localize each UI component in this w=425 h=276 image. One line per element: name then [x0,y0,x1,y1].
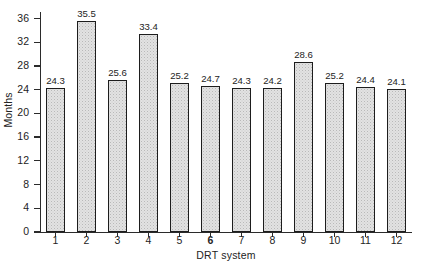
bar-11 [356,87,375,232]
bar-3 [108,80,127,232]
bar-value-label-9: 28.6 [282,49,326,60]
bar-6 [201,86,220,232]
bar-8 [263,88,282,232]
bar-value-label-4: 33.4 [127,21,171,32]
bar-value-label-3: 25.6 [96,67,140,78]
bar-value-label-2: 35.5 [65,8,109,19]
bar-value-label-12: 24.1 [375,76,419,87]
bar-5 [170,83,189,232]
bar-4 [139,34,158,232]
bar-12 [387,89,406,232]
bar-2 [77,21,96,232]
bar-1 [46,88,65,232]
bar-chart-figure: Months 04812162024283236 123456789101112… [0,0,425,276]
bar-value-label-1: 24.3 [34,75,78,86]
bar-7 [232,88,251,232]
bar-10 [325,83,344,232]
plot-area: 24.335.525.633.425.224.724.324.228.625.2… [0,0,425,276]
bar-9 [294,62,313,232]
x-axis-title: DRT system [40,249,412,261]
bar-value-label-8: 24.2 [251,75,295,86]
